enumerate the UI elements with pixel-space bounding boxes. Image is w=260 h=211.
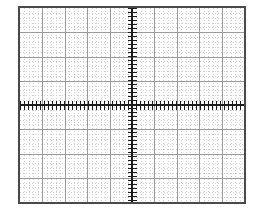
screenshot-canvas	[0, 0, 260, 211]
graticule-border-right	[244, 6, 246, 204]
oscilloscope-graticule[interactable]	[18, 6, 246, 204]
graticule-border-bottom	[18, 202, 246, 204]
center-axis-horizontal-ticks	[20, 101, 244, 110]
graticule-grid-layer	[20, 8, 244, 202]
